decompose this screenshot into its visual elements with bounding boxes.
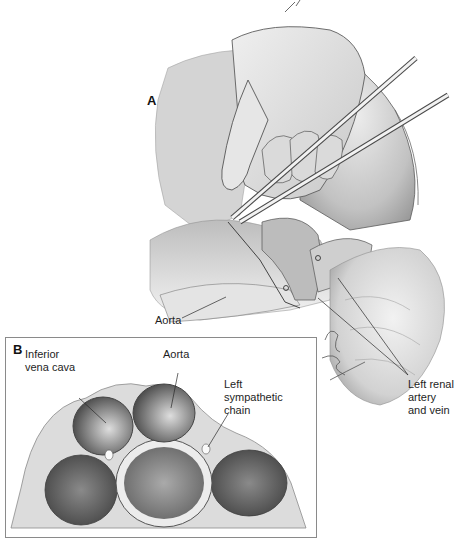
aorta-label-a: Aorta bbox=[155, 314, 181, 327]
aorta-label-b: Aorta bbox=[163, 348, 189, 361]
panel-b-letter: B bbox=[13, 342, 22, 357]
panel-b-inset: B Inferior vena cava Aorta Left sympathe… bbox=[5, 337, 317, 538]
surgical-illustration: A Aorta Left renal artery and vein bbox=[0, 0, 470, 546]
panel-a-letter: A bbox=[147, 93, 156, 108]
sympathetic-chain-label: Left sympathetic chain bbox=[224, 378, 283, 417]
left-renal-label: Left renal artery and vein bbox=[408, 378, 454, 417]
ivc-label: Inferior vena cava bbox=[25, 348, 75, 374]
